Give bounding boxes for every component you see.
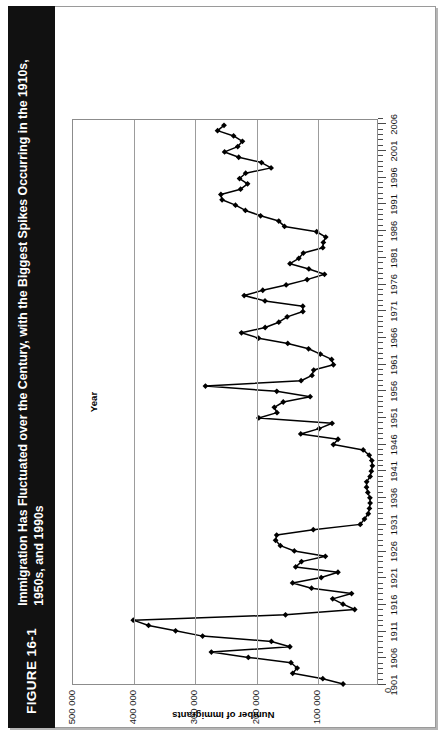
x-axis-tick [378,155,383,156]
x-axis: 1901190619111916192119261931193619411946… [378,119,432,685]
data-point-marker [306,266,312,272]
x-axis-tick [378,225,383,226]
x-axis-tick [378,198,383,199]
x-axis-tick [378,171,383,172]
x-axis-tick [378,444,386,445]
data-point-marker [274,410,280,416]
data-point-marker [241,293,247,299]
data-point-marker [340,601,346,607]
data-point-marker [364,484,370,490]
data-point-marker [306,346,312,352]
data-point-marker [259,160,265,166]
data-point-marker [300,309,306,315]
x-axis-tick-label: 2001 [388,141,399,162]
x-axis-tick [378,668,383,669]
x-axis-tick [378,604,386,605]
x-axis-tick-label: 1906 [388,648,399,669]
x-axis-tick [378,470,386,471]
x-axis-tick [378,358,383,359]
x-axis-tick-label: 1926 [388,541,399,562]
x-axis-tick [378,454,383,455]
x-axis-tick [378,535,383,536]
x-axis-tick [378,380,383,381]
x-axis-tick-label: 1961 [388,354,399,375]
data-point-marker [320,676,326,682]
data-point-marker [330,596,336,602]
x-axis-tick [378,417,386,418]
x-axis-tick [378,561,383,562]
data-point-marker [262,325,268,331]
x-axis-tick [378,433,383,434]
figure-label: FIGURE 16-1 [24,628,39,714]
figure-header-band: FIGURE 16-1 Immigration Has Fluctuated o… [8,6,55,728]
x-axis-tick [378,663,383,664]
figure-page: FIGURE 16-1 Immigration Has Fluctuated o… [0,0,444,741]
data-point-marker [349,591,355,597]
x-axis-tick [378,657,386,658]
x-axis-tick [378,348,383,349]
x-axis-tick-label: 1991 [388,194,399,215]
x-axis-tick [378,518,383,519]
x-axis-tick [378,508,383,509]
x-axis-tick [378,631,386,632]
chart-canvas: 100 000200 000300 000400 000500 000 Numb… [56,7,435,727]
x-axis-tick [378,625,383,626]
y-axis-tick-label: 500 000 [66,690,77,727]
immigration-line-series [73,120,377,684]
data-point-marker [258,213,264,219]
x-axis-tick [378,342,383,343]
x-axis-tick [378,599,383,600]
data-point-marker [222,149,228,155]
x-axis-tick [378,524,386,525]
x-axis-tick [378,273,383,274]
y-axis-tick-label: 100 000 [311,690,322,727]
x-axis-tick [378,476,383,477]
x-axis-tick [378,268,383,269]
data-point-marker [352,607,358,613]
x-axis-tick [378,278,383,279]
x-axis-tick-label: 1966 [388,328,399,349]
data-point-marker [274,532,280,538]
data-point-marker [298,378,304,384]
y-axis-title: Number of Immigrants [175,710,275,721]
y-axis-tick-label: 200 000 [250,690,261,727]
data-point-marker [309,373,315,379]
gridline [257,120,258,684]
x-axis-tick [378,129,383,130]
x-axis-tick-label: 1936 [388,488,399,509]
x-axis-tick [378,422,383,423]
data-point-marker [291,548,297,554]
x-axis-tick [378,609,383,610]
x-axis-tick [378,187,383,188]
x-axis-tick [378,177,386,178]
x-axis-tick [378,502,383,503]
x-axis-tick [378,193,383,194]
data-point-marker [331,362,337,368]
x-axis-tick [378,219,383,220]
data-point-marker [269,639,275,645]
x-axis-tick [378,460,383,461]
data-point-marker [243,208,249,214]
x-axis-tick [378,209,383,210]
data-point-marker [283,612,289,618]
data-point-marker [173,628,179,634]
x-axis-tick [378,497,386,498]
x-axis-tick [378,134,383,135]
x-axis-tick [378,577,386,578]
data-point-marker [218,192,224,198]
gridline [318,120,319,684]
gridline [195,120,196,684]
data-point-marker [368,468,374,474]
data-point-marker [370,463,376,469]
x-axis-tick [378,369,383,370]
data-point-marker [335,569,341,575]
x-axis-tick [378,305,383,306]
data-point-marker [318,575,324,581]
x-axis-tick [378,673,383,674]
x-axis-tick [378,166,383,167]
data-point-marker [268,165,274,171]
data-point-marker [307,394,313,400]
x-axis-tick-label: 2006 [388,114,399,135]
axis-origin-label: 0 [382,688,393,693]
data-point-marker [367,500,373,506]
